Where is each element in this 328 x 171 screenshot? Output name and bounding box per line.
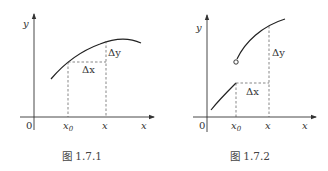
x-axis-label: x xyxy=(302,120,308,131)
y-axis-label: y xyxy=(22,18,29,29)
y-axis-label: y xyxy=(195,22,202,33)
figure-2: y x 0 Δx Δy x0 x 图 1.7.2 xyxy=(193,15,316,162)
lower-branch-curve xyxy=(211,83,236,110)
figure-1: y x 0 Δx Δy x0 x 图 1.7.1 xyxy=(20,14,154,162)
diagram-canvas: y x 0 Δx Δy x0 x 图 1.7.1 y x 0 Δx Δy x0 … xyxy=(0,0,328,171)
delta-x-label: Δx xyxy=(246,86,259,97)
tick-x: x xyxy=(265,120,271,131)
figure-caption: 图 1.7.2 xyxy=(230,150,270,162)
open-circle-marker xyxy=(234,60,238,64)
delta-y-label: Δy xyxy=(272,47,285,58)
tick-x0: x0 xyxy=(63,120,74,133)
tick-x: x xyxy=(102,120,108,131)
origin-label: 0 xyxy=(26,120,32,131)
figure-caption: 图 1.7.1 xyxy=(62,150,102,162)
origin-label: 0 xyxy=(199,120,205,131)
tick-x0: x0 xyxy=(231,120,242,133)
delta-y-label: Δy xyxy=(108,47,121,58)
x-axis-label: x xyxy=(141,120,147,131)
function-curve xyxy=(51,39,141,79)
delta-x-label: Δx xyxy=(82,64,95,75)
